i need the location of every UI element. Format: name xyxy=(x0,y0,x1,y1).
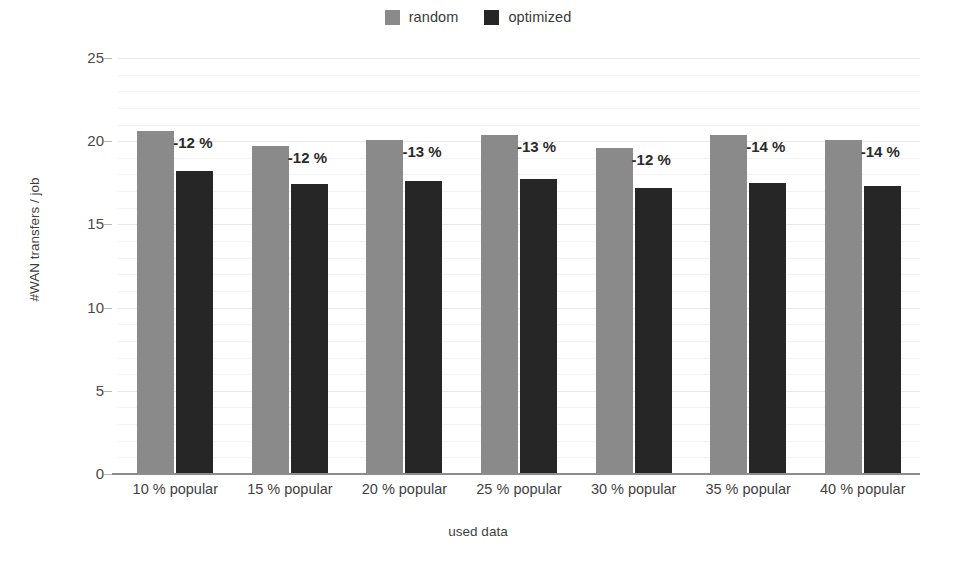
y-tick-mark xyxy=(104,308,112,309)
legend-item-random[interactable]: random xyxy=(385,10,459,25)
y-tick-label: 15 xyxy=(58,215,104,232)
x-tick-label: 35 % popular xyxy=(691,481,806,497)
y-tick-label: 5 xyxy=(58,382,104,399)
bar-random[interactable]: -13 % xyxy=(481,135,518,474)
bar-random[interactable]: -12 % xyxy=(252,146,289,474)
x-axis-tick-labels: 10 % popular15 % popular20 % popular25 %… xyxy=(118,481,920,497)
bar-delta-label: -13 % xyxy=(402,143,441,160)
bar-random[interactable]: -13 % xyxy=(366,140,403,474)
x-tick-label: 40 % popular xyxy=(805,481,920,497)
x-axis-line xyxy=(112,473,920,475)
bar-delta-label: -12 % xyxy=(288,149,327,166)
chart-legend: randomoptimized xyxy=(0,10,956,25)
bar-delta-label: -14 % xyxy=(861,143,900,160)
bar-random[interactable]: -14 % xyxy=(825,140,862,474)
bar-random[interactable]: -14 % xyxy=(710,135,747,474)
bar-optimized[interactable] xyxy=(635,188,672,474)
x-tick-label: 20 % popular xyxy=(347,481,462,497)
x-tick-label: 30 % popular xyxy=(576,481,691,497)
bar-optimized[interactable] xyxy=(749,183,786,474)
y-axis-title: #WAN transfers / job xyxy=(27,130,42,350)
y-tick-label: 25 xyxy=(58,49,104,66)
legend-swatch-icon xyxy=(385,10,400,25)
x-tick-label: 10 % popular xyxy=(118,481,233,497)
y-tick-mark xyxy=(104,224,112,225)
bar-group: -12 % xyxy=(233,58,348,474)
legend-item-optimized[interactable]: optimized xyxy=(484,10,571,25)
y-tick-mark xyxy=(104,58,112,59)
y-tick-label: 20 xyxy=(58,132,104,149)
bar-random[interactable]: -12 % xyxy=(596,148,633,474)
y-tick-mark xyxy=(104,474,112,475)
bar-group: -12 % xyxy=(576,58,691,474)
y-tick-mark xyxy=(104,391,112,392)
bar-group: -14 % xyxy=(691,58,806,474)
bar-optimized[interactable] xyxy=(176,171,213,474)
y-tick-mark xyxy=(104,141,112,142)
bar-optimized[interactable] xyxy=(520,179,557,474)
bar-delta-label: -13 % xyxy=(517,138,556,155)
x-tick-label: 25 % popular xyxy=(462,481,577,497)
bar-group: -12 % xyxy=(118,58,233,474)
bar-optimized[interactable] xyxy=(291,184,328,474)
legend-item-label: random xyxy=(409,10,459,25)
y-tick-label: 0 xyxy=(58,465,104,482)
bar-delta-label: -12 % xyxy=(632,151,671,168)
bar-optimized[interactable] xyxy=(864,186,901,474)
bar-optimized[interactable] xyxy=(405,181,442,474)
x-tick-label: 15 % popular xyxy=(233,481,348,497)
y-axis-ticks: 2520151050 xyxy=(52,58,104,474)
y-tick-label: 10 xyxy=(58,299,104,316)
bar-delta-label: -12 % xyxy=(173,134,212,151)
bar-group: -13 % xyxy=(347,58,462,474)
bar-groups: -12 %-12 %-13 %-13 %-12 %-14 %-14 % xyxy=(118,58,920,474)
legend-item-label: optimized xyxy=(508,10,571,25)
bar-group: -14 % xyxy=(805,58,920,474)
x-axis-title: used data xyxy=(0,524,956,539)
bar-random[interactable]: -12 % xyxy=(137,131,174,474)
bar-group: -13 % xyxy=(462,58,577,474)
bar-delta-label: -14 % xyxy=(746,138,785,155)
legend-swatch-icon xyxy=(484,10,499,25)
